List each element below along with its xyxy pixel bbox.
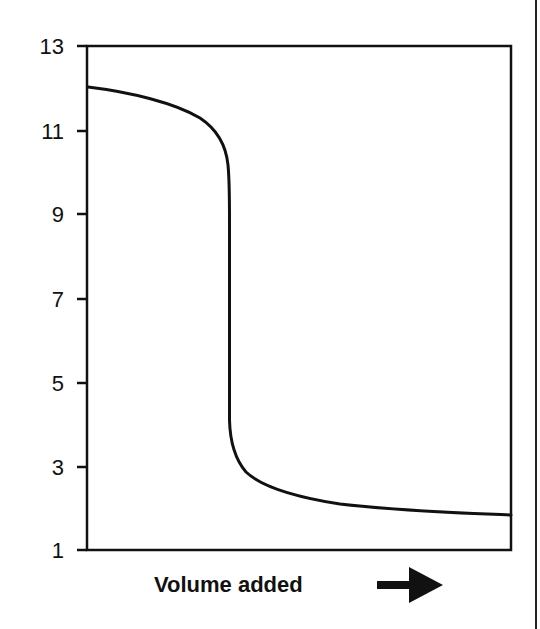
arrow-right-icon bbox=[377, 567, 443, 603]
plot-frame bbox=[87, 46, 511, 550]
y-tick-label-7: 7 bbox=[52, 287, 64, 312]
x-axis-label: Volume added bbox=[154, 572, 303, 597]
y-ticks bbox=[77, 46, 87, 550]
titration-curve bbox=[88, 87, 511, 515]
titration-chart: 13 11 9 7 5 3 1 Volume added bbox=[0, 0, 540, 629]
y-tick-label-9: 9 bbox=[52, 202, 64, 227]
y-tick-label-1: 1 bbox=[52, 538, 64, 563]
y-tick-labels: 13 11 9 7 5 3 1 bbox=[40, 34, 64, 563]
y-tick-label-3: 3 bbox=[52, 455, 64, 480]
y-tick-label-11: 11 bbox=[41, 119, 64, 144]
y-tick-label-13: 13 bbox=[40, 34, 64, 59]
page-border bbox=[535, 0, 537, 629]
y-tick-label-5: 5 bbox=[52, 371, 64, 396]
